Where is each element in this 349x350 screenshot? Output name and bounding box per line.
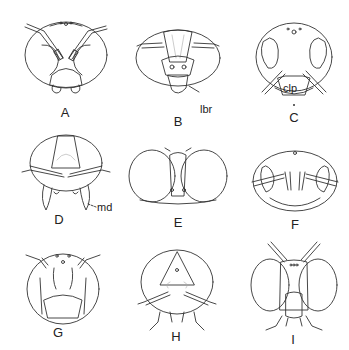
panel-label-h: H	[171, 330, 180, 343]
panel-label-g: G	[53, 326, 63, 339]
annotation-mandible: md	[97, 202, 112, 213]
head-drawing-f	[252, 151, 338, 211]
head-drawing-b	[136, 30, 220, 93]
head-drawing-e	[129, 148, 227, 204]
panel-label-c: C	[289, 111, 298, 124]
head-drawing-i	[251, 242, 337, 330]
head-drawing-d	[22, 135, 110, 210]
panel-label-d: D	[54, 213, 63, 226]
panel-label-f: F	[291, 218, 299, 231]
panel-label-i: I	[291, 333, 295, 346]
head-drawing-g	[26, 254, 100, 324]
panel-label-e: E	[174, 216, 183, 229]
head-drawing-a	[25, 22, 107, 93]
annotation-labrum: lbr	[200, 104, 212, 115]
figure-drawings	[0, 0, 349, 350]
panel-label-b: B	[174, 115, 183, 128]
annotation-clypeus: clp	[283, 83, 297, 94]
head-drawing-h	[138, 250, 216, 330]
head-drawing-c	[256, 23, 332, 106]
insect-head-figure: A B C D E F G H I lbr clp md	[0, 0, 349, 350]
panel-label-a: A	[61, 106, 70, 119]
